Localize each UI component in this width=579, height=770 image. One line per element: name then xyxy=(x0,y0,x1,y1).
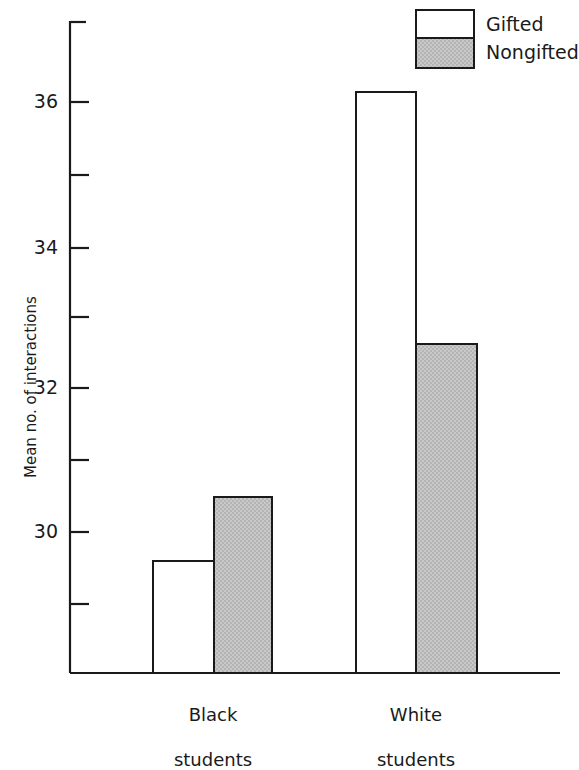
legend-label-nongifted: Nongifted xyxy=(486,41,579,63)
y-tick-label-36: 36 xyxy=(14,90,58,112)
legend-label-gifted: Gifted xyxy=(486,13,544,35)
y-tick-label-30: 30 xyxy=(14,520,58,542)
category-label-white: White students xyxy=(346,681,486,770)
category-label-black-line2: students xyxy=(174,749,252,770)
category-label-white-line1: White xyxy=(390,704,442,725)
bar-white-gifted[interactable] xyxy=(356,92,416,673)
category-label-black: Black students xyxy=(143,681,283,770)
bar-black-nongifted[interactable] xyxy=(214,497,272,673)
category-label-white-line2: students xyxy=(377,749,455,770)
bar-white-nongifted[interactable] xyxy=(416,344,477,673)
y-tick-label-34: 34 xyxy=(14,236,58,258)
y-axis-title: Mean no. of interactions xyxy=(22,296,40,478)
legend-swatch-nongifted xyxy=(416,38,474,68)
legend-swatch-gifted xyxy=(416,10,474,38)
bar-black-gifted[interactable] xyxy=(153,561,214,673)
category-label-black-line1: Black xyxy=(189,704,238,725)
